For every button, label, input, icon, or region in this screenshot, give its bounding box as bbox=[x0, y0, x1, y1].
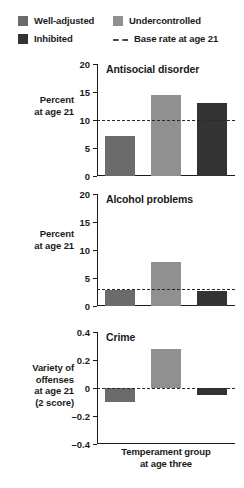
bar bbox=[105, 136, 135, 176]
legend-swatch-well-adjusted bbox=[18, 16, 28, 26]
y-axis-label-line4: (2 score) bbox=[4, 397, 74, 409]
y-tick-label: 0.4 bbox=[77, 327, 90, 338]
bar bbox=[151, 95, 181, 176]
plot-area: Antisocial disorder 05101520 bbox=[97, 64, 235, 176]
legend-entry-well-adjusted: Well-adjusted bbox=[18, 16, 94, 26]
legend-entry-inhibited: Inhibited bbox=[18, 34, 73, 44]
y-tick bbox=[93, 250, 97, 251]
y-tick-label: –0.4 bbox=[72, 439, 91, 450]
y-tick bbox=[93, 194, 97, 195]
y-tick-label: 0.2 bbox=[77, 355, 90, 366]
plot-area: Alcohol problems 05101520 bbox=[97, 194, 235, 306]
y-tick bbox=[93, 278, 97, 279]
y-tick-label: 5 bbox=[85, 273, 90, 284]
y-axis-label-line1: Percent bbox=[4, 94, 74, 106]
legend-entry-base-rate: Base rate at age 21 bbox=[113, 34, 218, 44]
legend-swatch-inhibited bbox=[18, 34, 28, 44]
legend-dashed-line-icon bbox=[113, 34, 128, 44]
bar bbox=[197, 103, 227, 176]
bar bbox=[151, 349, 181, 388]
y-tick-label: 20 bbox=[79, 189, 90, 200]
y-tick bbox=[93, 360, 97, 361]
panel-title: Crime bbox=[106, 331, 135, 343]
legend-label-well-adjusted: Well-adjusted bbox=[34, 16, 94, 26]
y-tick-label: –0.2 bbox=[72, 411, 91, 422]
y-tick-label: 5 bbox=[85, 143, 90, 154]
y-tick-label: 10 bbox=[79, 115, 90, 126]
y-tick-label: 15 bbox=[79, 217, 90, 228]
bar bbox=[151, 262, 181, 306]
chart-panel-antisocial-disorder: Percent at age 21 Antisocial disorder 05… bbox=[0, 58, 244, 182]
y-axis-label: Percent at age 21 bbox=[4, 228, 74, 251]
y-tick-label: 0 bbox=[85, 171, 90, 182]
y-tick-label: 15 bbox=[79, 87, 90, 98]
y-tick-label: 20 bbox=[79, 59, 90, 70]
legend-label-base-rate: Base rate at age 21 bbox=[134, 34, 218, 44]
x-axis-label: Temperament group at age three bbox=[97, 446, 235, 470]
y-axis-label-line1: Percent bbox=[4, 228, 74, 240]
y-tick-label: 0 bbox=[85, 301, 90, 312]
y-axis-label-line2: at age 21 bbox=[4, 106, 74, 118]
y-tick bbox=[93, 444, 97, 445]
y-tick bbox=[93, 416, 97, 417]
y-tick bbox=[93, 176, 97, 177]
chart-panel-crime: Variety of offenses at age 21 (2 score) … bbox=[0, 326, 244, 452]
bar bbox=[197, 291, 227, 306]
y-tick-label: 0 bbox=[85, 383, 90, 394]
y-tick bbox=[93, 64, 97, 65]
legend-label-undercontrolled: Undercontrolled bbox=[129, 16, 201, 26]
x-axis-label-line1: Temperament group bbox=[97, 446, 235, 458]
x-axis-label-line2: at age three bbox=[97, 458, 235, 470]
bar bbox=[105, 388, 135, 402]
y-tick bbox=[93, 92, 97, 93]
y-axis-label: Variety of offenses at age 21 (2 score) bbox=[4, 362, 74, 408]
bar bbox=[197, 388, 227, 395]
y-tick bbox=[93, 222, 97, 223]
base-rate-line bbox=[97, 120, 235, 121]
y-tick bbox=[93, 148, 97, 149]
y-tick-label: 10 bbox=[79, 245, 90, 256]
base-rate-line bbox=[97, 289, 235, 290]
y-axis-label-line1: Variety of bbox=[4, 362, 74, 374]
panel-title: Antisocial disorder bbox=[106, 63, 199, 75]
legend-entry-undercontrolled: Undercontrolled bbox=[113, 16, 201, 26]
legend-swatch-undercontrolled bbox=[113, 16, 123, 26]
panel-title: Alcohol problems bbox=[106, 193, 193, 205]
y-axis-label: Percent at age 21 bbox=[4, 94, 74, 117]
base-rate-line bbox=[97, 388, 235, 389]
plot-area: Crime –0.4–0.200.20.4 bbox=[97, 332, 235, 444]
x-axis-line bbox=[97, 443, 235, 444]
chart-panel-alcohol-problems: Percent at age 21 Alcohol problems 05101… bbox=[0, 188, 244, 314]
y-tick bbox=[93, 306, 97, 307]
bar bbox=[105, 290, 135, 306]
y-axis-label-line2: at age 21 bbox=[4, 240, 74, 252]
chart-legend: Well-adjusted Undercontrolled Inhibited … bbox=[0, 0, 244, 52]
y-axis-label-line3: at age 21 bbox=[4, 385, 74, 397]
y-tick bbox=[93, 332, 97, 333]
y-axis-label-line2: offenses bbox=[4, 374, 74, 386]
legend-label-inhibited: Inhibited bbox=[34, 34, 73, 44]
